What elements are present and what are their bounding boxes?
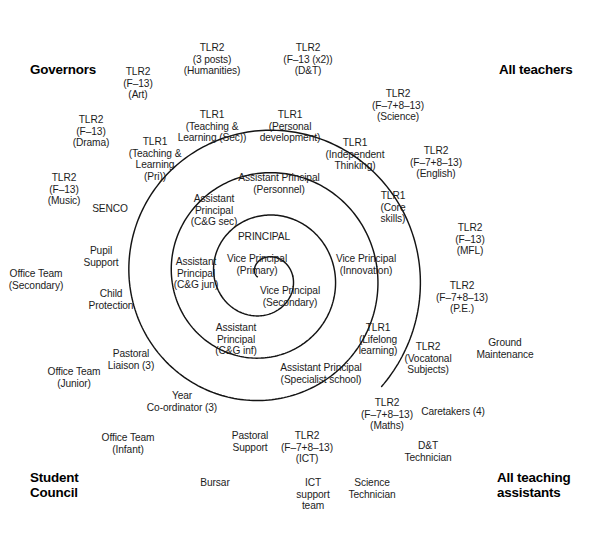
- node-label-pupil-support: Pupil Support: [84, 245, 119, 268]
- node-label-tlr1-core-skills: TLR1 (Core skills): [381, 190, 406, 225]
- node-label-pastoral-liaison: Pastoral Liaison (3): [108, 348, 154, 371]
- node-label-year-coordinator: Year Co-ordinator (3): [147, 390, 217, 413]
- node-label-tlr2-drama: TLR2 (F–13) (Drama): [73, 114, 110, 149]
- node-label-vice-principal-primary: Vice Principal (Primary): [227, 253, 287, 276]
- node-label-ground-maintenance: Ground Maintenance: [476, 337, 533, 360]
- node-label-bursar: Bursar: [200, 477, 229, 489]
- node-label-office-team-junior: Office Team (Junior): [48, 366, 101, 389]
- node-label-dt-technician: D&T Technician: [404, 440, 451, 463]
- node-label-asst-principal-personnel: Assistant Principal (Personnel): [238, 172, 319, 195]
- node-label-tlr2-dt: TLR2 (F–13 (x2)) (D&T): [283, 42, 332, 77]
- node-label-tlr1-lifelong-learning: TLR1 (Lifelong learning): [359, 322, 398, 357]
- node-label-tlr2-science: TLR2 (F–7+8–13) (Science): [372, 88, 424, 123]
- node-label-tlr2-vocational: TLR2 (Vocatonal Subjects): [404, 341, 451, 376]
- node-label-child-protection: Child Protection: [89, 288, 134, 311]
- node-label-tlr1-personal-development: TLR1 (Personal development): [260, 109, 321, 144]
- node-label-ict-support-team: ICT support team: [296, 477, 329, 512]
- node-label-pastoral-support: Pastoral Support: [232, 430, 269, 453]
- node-label-office-team-infant: Office Team (Infant): [102, 432, 155, 455]
- node-label-tlr1-teaching-learning-pri: TLR1 (Teaching & Learning (Pri)): [129, 136, 182, 182]
- node-label-tlr2-music: TLR2 (F–13) (Music): [48, 172, 81, 207]
- node-label-office-team-secondary: Office Team (Secondary): [9, 268, 63, 291]
- node-label-caretakers: Caretakers (4): [421, 406, 485, 418]
- node-label-vice-principal-innovation: Vice Principal (Innovation): [336, 253, 396, 276]
- corner-label-all-teaching-assts: All teaching assistants: [497, 470, 571, 501]
- node-label-tlr1-independent-thinking: TLR1 (Independent Thinking): [326, 137, 385, 172]
- node-label-asst-principal-cg-sec: Assistant Principal (C&G sec): [191, 193, 238, 228]
- corner-label-governors: Governors: [30, 62, 96, 77]
- node-label-tlr2-art: TLR2 (F–13) (Art): [123, 66, 152, 101]
- node-label-senco: SENCO: [92, 203, 128, 215]
- spiral-diagram: GovernorsAll teachersStudent CouncilAll …: [0, 0, 616, 556]
- node-label-principal: PRINCIPAL: [238, 231, 290, 243]
- node-label-tlr2-maths: TLR2 (F–7+8–13) (Maths): [361, 397, 413, 432]
- node-label-asst-principal-cg-jun: Assistant Principal (C&G jun): [174, 256, 218, 291]
- node-label-asst-principal-specialist: Assistant Principal (Specialist school): [280, 362, 361, 385]
- node-label-tlr2-pe: TLR2 (F–7+8–13) (P.E.): [436, 280, 488, 315]
- corner-label-student-council: Student Council: [30, 470, 78, 501]
- node-label-tlr2-humanities: TLR2 (3 posts) (Humanities): [184, 42, 241, 77]
- node-label-vice-principal-secondary: Vice Principal (Secondary): [260, 285, 320, 308]
- node-label-tlr1-teaching-learning-sec: TLR1 (Teaching & Learning (Sec)): [178, 109, 247, 144]
- node-label-tlr2-english: TLR2 (F–7+8–13) (English): [410, 145, 462, 180]
- node-label-science-technician: Science Technician: [348, 477, 395, 500]
- node-label-asst-principal-cg-inf: Assistant Principal (C&G inf): [215, 322, 257, 357]
- corner-label-all-teachers: All teachers: [499, 62, 573, 77]
- node-label-tlr2-ict: TLR2 (F–7+8–13) (ICT): [281, 430, 333, 465]
- node-label-tlr2-mfl: TLR2 (F–13) (MFL): [455, 222, 484, 257]
